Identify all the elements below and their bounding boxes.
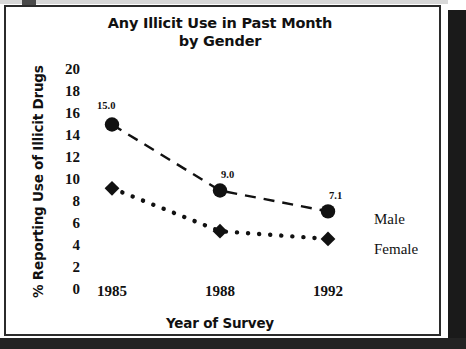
scan-right-edge-shadow xyxy=(448,10,466,349)
y-tick-label: 14 xyxy=(52,128,80,143)
data-point-value-label: 9.0 xyxy=(221,169,234,180)
y-tick-label: 8 xyxy=(52,194,80,209)
y-tick-label: 4 xyxy=(52,238,80,253)
y-tick-label: 16 xyxy=(52,106,80,121)
y-tick-label: 6 xyxy=(52,216,80,231)
y-tick-label: 10 xyxy=(52,172,80,187)
chart-title-line-2: by Gender xyxy=(60,32,380,50)
data-point-value-label: 15.0 xyxy=(97,100,115,111)
y-tick-label: 12 xyxy=(52,150,80,165)
y-axis-tick-labels: 20181614121086420 xyxy=(48,0,80,349)
x-axis-title: Year of Survey xyxy=(60,315,380,331)
data-point-value-label: 7.1 xyxy=(329,190,342,201)
chart-title-line-1: Any Illicit Use in Past Month xyxy=(108,15,332,31)
x-tick-label: 1985 xyxy=(77,284,147,299)
y-tick-label: 20 xyxy=(52,62,80,77)
y-tick-label: 2 xyxy=(52,260,80,275)
y-tick-label: 0 xyxy=(52,282,80,297)
y-axis-title: % Reporting Use of Illicit Drugs xyxy=(30,68,46,298)
legend-item-female: Female xyxy=(374,241,418,257)
x-tick-label: 1988 xyxy=(185,284,255,299)
y-tick-label: 18 xyxy=(52,84,80,99)
legend-item-male: Male xyxy=(374,211,405,227)
chart-title: Any Illicit Use in Past Month by Gender xyxy=(60,14,380,50)
x-tick-label: 1992 xyxy=(293,284,363,299)
